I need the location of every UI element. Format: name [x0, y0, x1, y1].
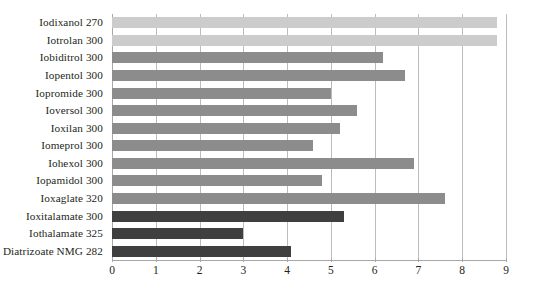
tick-mark: [156, 258, 157, 262]
bar-row: [112, 102, 506, 120]
bar-row: [112, 243, 506, 261]
category-label: Iopentol 300: [0, 67, 108, 85]
category-label: Iodixanol 270: [0, 14, 108, 32]
bar: [112, 158, 414, 169]
bar: [112, 52, 383, 63]
category-label: Iohexol 300: [0, 155, 108, 173]
bar: [112, 35, 497, 46]
tick-mark: [243, 258, 244, 262]
x-tick-label: 6: [372, 265, 378, 277]
bar: [112, 211, 344, 222]
bar: [112, 140, 313, 151]
category-label: Iopromide 300: [0, 84, 108, 102]
x-tick-label: 0: [109, 265, 115, 277]
category-label: Iobiditrol 300: [0, 49, 108, 67]
x-axis-line: [112, 260, 506, 261]
x-tick-label: 8: [459, 265, 465, 277]
category-label: Ioversol 300: [0, 102, 108, 120]
category-label: Diatrizoate NMG 282: [0, 243, 108, 261]
category-label: Ioxaglate 320: [0, 190, 108, 208]
tick-mark: [462, 258, 463, 262]
tick-mark: [331, 258, 332, 262]
x-tick-label: 9: [503, 265, 509, 277]
bar: [112, 123, 340, 134]
x-tick-label: 5: [328, 265, 334, 277]
x-tick-label: 3: [240, 265, 246, 277]
bar: [112, 88, 331, 99]
bar-row: [112, 190, 506, 208]
category-label: Ioxitalamate 300: [0, 207, 108, 225]
category-label: Ioxilan 300: [0, 119, 108, 137]
bar: [112, 228, 243, 239]
category-label: Iomeprol 300: [0, 137, 108, 155]
plot-area: [112, 14, 506, 260]
tick-mark: [112, 258, 113, 262]
bar: [112, 193, 445, 204]
bar: [112, 105, 357, 116]
bar-row: [112, 119, 506, 137]
x-tick-label: 4: [284, 265, 290, 277]
bar-row: [112, 172, 506, 190]
bar: [112, 175, 322, 186]
x-tick-label: 7: [416, 265, 422, 277]
tick-mark: [200, 258, 201, 262]
bar-series: [112, 14, 506, 260]
category-label: Iotrolan 300: [0, 32, 108, 50]
tick-mark: [375, 258, 376, 262]
bar: [112, 17, 497, 28]
bar-row: [112, 84, 506, 102]
bar-row: [112, 67, 506, 85]
bar-row: [112, 225, 506, 243]
x-tick-label: 2: [197, 265, 203, 277]
chart-plot-wrapper: Iodixanol 270Iotrolan 300Iobiditrol 300I…: [0, 0, 536, 292]
x-tick-label: 1: [153, 265, 159, 277]
tick-mark: [418, 258, 419, 262]
tick-mark: [506, 258, 507, 262]
bar-row: [112, 137, 506, 155]
bar: [112, 70, 405, 81]
tick-mark: [287, 258, 288, 262]
bar-row: [112, 32, 506, 50]
bar-row: [112, 14, 506, 32]
bar-row: [112, 207, 506, 225]
bar-row: [112, 49, 506, 67]
gridline: [506, 14, 507, 260]
bar: [112, 246, 291, 257]
category-label: Iothalamate 325: [0, 225, 108, 243]
bar-chart: Iodixanol 270Iotrolan 300Iobiditrol 300I…: [0, 0, 536, 292]
bar-row: [112, 155, 506, 173]
category-label: Iopamidol 300: [0, 172, 108, 190]
x-axis-tick-labels: 0123456789: [112, 262, 506, 284]
category-axis-labels: Iodixanol 270Iotrolan 300Iobiditrol 300I…: [0, 14, 108, 260]
